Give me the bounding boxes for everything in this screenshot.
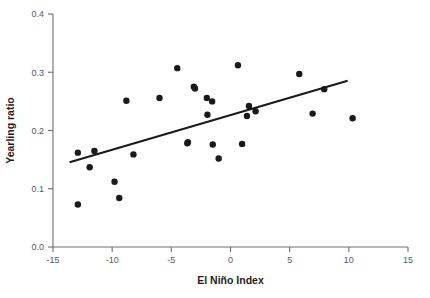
x-tick-label: 10 <box>344 255 354 265</box>
plot-canvas: -15-10-50510150.00.10.20.30.4 El Niño In… <box>0 0 430 298</box>
x-tick-label: 5 <box>287 255 292 265</box>
scatter-point <box>252 108 258 114</box>
y-axis-title: Yearling ratio <box>4 97 16 164</box>
scatter-point <box>75 149 81 155</box>
scatter-point <box>174 65 180 71</box>
scatter-point <box>91 148 97 154</box>
data-points <box>75 62 356 208</box>
x-tick-label: -10 <box>106 255 119 265</box>
scatter-point <box>215 155 221 161</box>
scatter-point <box>184 140 190 146</box>
scatter-point <box>86 164 92 170</box>
scatter-point <box>309 110 315 116</box>
scatter-point <box>239 141 245 147</box>
y-tick-label: 0.2 <box>31 126 44 136</box>
regression-line <box>70 81 348 163</box>
scatter-point <box>204 95 210 101</box>
scatter-point <box>192 85 198 91</box>
axes: -15-10-50510150.00.10.20.30.4 <box>31 9 413 265</box>
x-tick-label: -5 <box>167 255 175 265</box>
scatter-plot-figure: -15-10-50510150.00.10.20.30.4 El Niño In… <box>0 0 430 298</box>
scatter-point <box>123 98 129 104</box>
x-axis-title: El Niño Index <box>197 274 264 286</box>
scatter-point <box>235 62 241 68</box>
y-tick-label: 0.3 <box>31 68 44 78</box>
x-tick-label: -15 <box>46 255 59 265</box>
scatter-point <box>296 71 302 77</box>
scatter-point <box>349 115 355 121</box>
scatter-point <box>246 103 252 109</box>
scatter-point <box>130 151 136 157</box>
x-tick-label: 0 <box>228 255 233 265</box>
scatter-point <box>75 201 81 207</box>
y-tick-label: 0.4 <box>31 9 44 19</box>
trendline <box>70 81 348 163</box>
x-tick-label: 15 <box>403 255 413 265</box>
scatter-point <box>209 98 215 104</box>
scatter-point <box>204 112 210 118</box>
scatter-point <box>244 113 250 119</box>
scatter-point <box>321 86 327 92</box>
scatter-point <box>116 195 122 201</box>
scatter-point <box>210 141 216 147</box>
scatter-point <box>111 179 117 185</box>
y-tick-label: 0.1 <box>31 184 44 194</box>
scatter-point <box>156 95 162 101</box>
y-tick-label: 0.0 <box>31 242 44 252</box>
